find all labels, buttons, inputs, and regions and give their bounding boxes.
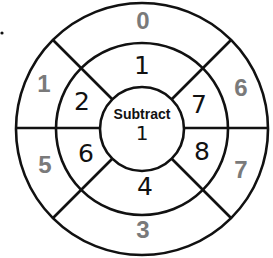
center-operand: 1 [136,121,149,145]
middle-number-lower-left: 6 [78,139,94,168]
outer-number-lower-left: 5 [38,151,51,178]
middle-number-top: 1 [134,51,150,80]
middle-number-upper-right: 7 [191,90,207,119]
middle-number-lower-right: 8 [194,137,210,166]
stray-dot [0,31,3,34]
divider-lower-right [172,159,231,218]
center-operation-label: Subtract [114,106,171,122]
outer-number-lower-right: 7 [234,156,247,183]
divider-lower-left [53,159,112,218]
outer-number-upper-right: 6 [234,74,247,101]
outer-number-upper-left: 1 [37,70,50,97]
outer-number-bottom: 3 [136,216,149,243]
middle-number-bottom: 4 [137,172,153,201]
subtraction-wheel: 0 6 7 3 5 1 1 7 8 4 6 2 Subtract 1 [0,0,273,258]
middle-number-upper-left: 2 [74,87,90,116]
outer-number-top: 0 [136,7,149,34]
